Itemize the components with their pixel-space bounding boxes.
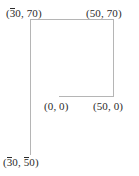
coord-label-origin: (0, 0) [44, 100, 68, 112]
paren-close: ) [38, 7, 42, 19]
diagram-lines [0, 0, 139, 176]
paren-close: ) [35, 156, 39, 168]
coord-x-value: 50 [90, 7, 101, 19]
negative-sign-x: 30 [10, 7, 21, 19]
negative-sign-y: 50 [24, 156, 35, 168]
coord-y-value: 70 [27, 7, 38, 19]
coord-label-bottom-right: (50, 0) [93, 100, 123, 112]
coord-x-value: 30 [10, 7, 21, 19]
coord-label-top-left: (30, 70) [6, 7, 42, 19]
coord-x-value: 30 [7, 156, 18, 168]
coord-y-value: 70 [107, 7, 118, 19]
paren-close: ) [65, 100, 69, 112]
paren-close: ) [119, 100, 123, 112]
coord-label-top-right: (50, 70) [86, 7, 122, 19]
negative-sign-x: 30 [7, 156, 18, 168]
coord-y-value: 50 [24, 156, 35, 168]
coord-label-bottom-left: (30, 50) [3, 156, 39, 168]
paren-close: ) [118, 7, 122, 19]
coordinate-diagram: (30, 70) (50, 70) (0, 0) (50, 0) (30, 50… [0, 0, 139, 176]
coord-x-value: 50 [97, 100, 108, 112]
